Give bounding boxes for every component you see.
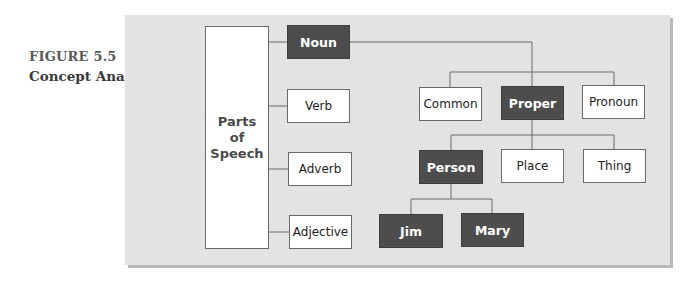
node-thing: Thing: [583, 149, 646, 183]
node-adjective: Adjective: [289, 215, 352, 249]
node-mary: Mary: [461, 213, 524, 247]
node-jim: Jim: [379, 214, 443, 248]
root-node-parts-of-speech: Parts of Speech: [205, 26, 269, 249]
node-adverb: Adverb: [288, 152, 352, 186]
root-label-line-3: Speech: [210, 146, 263, 162]
node-pronoun: Pronoun: [582, 85, 645, 119]
node-common: Common: [419, 87, 482, 121]
node-proper: Proper: [501, 86, 564, 120]
node-noun: Noun: [287, 25, 350, 59]
node-person: Person: [419, 150, 483, 184]
node-place: Place: [501, 149, 564, 183]
root-label-line-2: of: [230, 130, 245, 146]
node-verb: Verb: [287, 89, 350, 123]
root-label-line-1: Parts: [218, 114, 256, 130]
